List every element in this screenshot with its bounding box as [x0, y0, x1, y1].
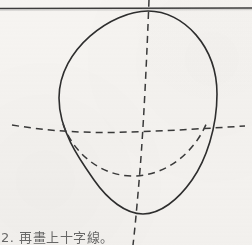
head-construction-diagram [0, 0, 252, 245]
ruled-line [0, 8, 252, 9]
diagram-root: 2. 再畫上十字線。 [0, 0, 252, 245]
ruled-line-shadow [0, 10, 252, 11]
